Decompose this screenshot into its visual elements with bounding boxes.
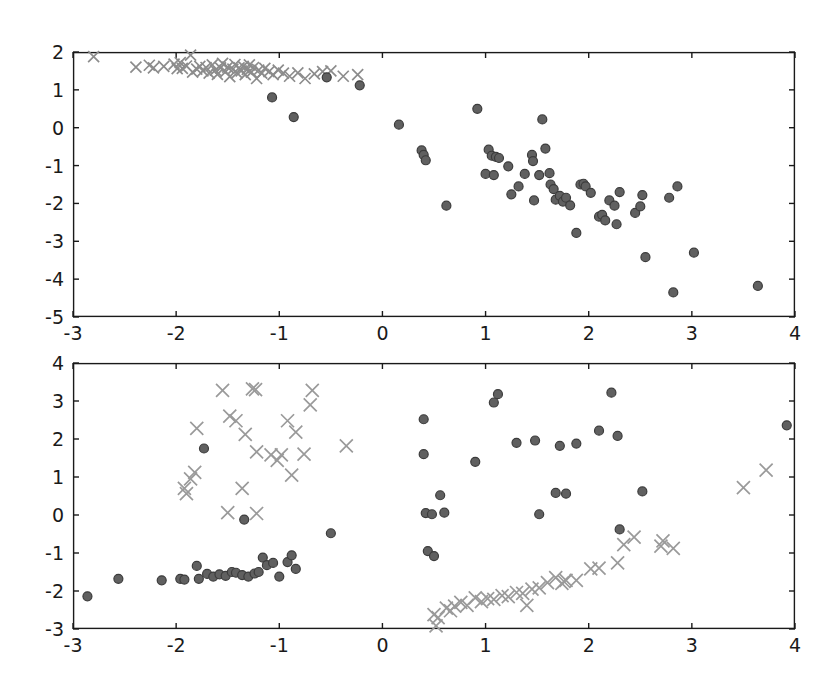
data-point-circle — [514, 182, 523, 191]
data-point-circle — [638, 487, 647, 496]
plot-area — [73, 363, 795, 629]
scatter-plot-top — [73, 52, 795, 317]
data-point-circle — [636, 202, 645, 211]
data-point-circle — [493, 390, 502, 399]
data-point-circle — [326, 529, 335, 538]
axis-ticks — [73, 363, 795, 629]
data-point-cross — [250, 445, 263, 458]
data-point-cross — [611, 556, 624, 569]
data-point-circle — [436, 491, 445, 500]
data-point-circle — [689, 248, 698, 257]
axes-frame — [74, 53, 795, 317]
data-point-circle — [268, 93, 277, 102]
data-point-cross — [216, 384, 229, 397]
y-tick-label: -3 — [45, 620, 64, 639]
data-point-circle — [782, 421, 791, 430]
data-point-circle — [530, 196, 539, 205]
data-point-cross — [130, 62, 141, 73]
x-tick-label: -1 — [270, 324, 289, 343]
data-point-cross — [428, 608, 441, 621]
data-point-circle — [512, 438, 521, 447]
data-point-circle — [157, 576, 166, 585]
data-point-circle — [520, 169, 529, 178]
data-point-cross — [239, 428, 252, 441]
data-point-circle — [665, 193, 674, 202]
data-point-circle — [481, 169, 490, 178]
data-point-cross — [188, 466, 201, 479]
data-point-cross — [430, 619, 443, 632]
y-tick-label: -2 — [45, 582, 64, 601]
data-point-circle — [612, 220, 621, 229]
y-tick-label: 2 — [52, 430, 64, 449]
data-point-cross — [178, 482, 191, 495]
data-point-cross — [541, 576, 554, 589]
data-point-cross — [760, 464, 773, 477]
x-tick-label: 2 — [583, 636, 595, 655]
x-tick-label: -2 — [167, 324, 186, 343]
data-point-cross — [306, 384, 319, 397]
data-point-circle — [287, 551, 296, 560]
data-point-cross — [533, 581, 546, 594]
data-point-cross — [184, 472, 197, 485]
data-point-cross — [229, 414, 242, 427]
data-point-circle — [586, 188, 595, 197]
data-point-circle — [269, 558, 278, 567]
data-point-circle — [192, 561, 201, 570]
data-point-circle — [562, 489, 571, 498]
y-tick-label: 4 — [52, 354, 64, 373]
x-tick-label: 1 — [480, 636, 492, 655]
data-point-circle — [421, 156, 430, 165]
data-point-circle — [641, 253, 650, 262]
data-point-circle — [494, 154, 503, 163]
y-tick-label: -5 — [45, 308, 64, 327]
data-point-circle — [442, 201, 451, 210]
data-point-circle — [551, 488, 560, 497]
data-point-circle — [607, 388, 616, 397]
data-point-circle — [194, 574, 203, 583]
data-point-circle — [83, 592, 92, 601]
data-point-cross — [217, 58, 228, 69]
x-tick-label: -1 — [270, 636, 289, 655]
data-point-cross — [593, 562, 606, 575]
data-point-circle — [541, 144, 550, 153]
data-point-circle — [753, 281, 762, 290]
data-point-cross — [667, 542, 680, 555]
x-tick-label: 0 — [376, 636, 388, 655]
y-tick-label: -4 — [45, 270, 64, 289]
scatter-plot-bottom — [73, 363, 795, 629]
data-point-cross — [250, 507, 263, 520]
data-point-cross — [236, 482, 249, 495]
data-point-circle — [291, 564, 300, 573]
data-point-cross — [185, 50, 196, 61]
series-circle-markers — [268, 73, 763, 297]
data-point-circle — [254, 568, 263, 577]
data-point-circle — [427, 510, 436, 519]
y-tick-label: -1 — [45, 156, 64, 175]
data-point-circle — [572, 439, 581, 448]
data-point-circle — [440, 508, 449, 517]
data-point-circle — [180, 575, 189, 584]
data-point-cross — [180, 487, 193, 500]
data-point-cross — [628, 531, 641, 544]
data-point-circle — [489, 171, 498, 180]
data-point-cross — [304, 398, 317, 411]
x-tick-label: 3 — [686, 636, 698, 655]
data-point-circle — [114, 574, 123, 583]
data-point-circle — [489, 398, 498, 407]
data-point-circle — [566, 201, 575, 210]
x-tick-label: -3 — [64, 636, 83, 655]
data-point-cross — [560, 574, 573, 587]
data-point-cross — [520, 599, 533, 612]
data-point-circle — [275, 572, 284, 581]
data-point-circle — [471, 457, 480, 466]
data-point-cross — [656, 534, 669, 547]
x-tick-label: 3 — [686, 324, 698, 343]
data-point-circle — [555, 441, 564, 450]
data-point-circle — [615, 188, 624, 197]
data-point-cross — [737, 481, 750, 494]
data-point-cross — [275, 448, 288, 461]
data-point-circle — [601, 216, 610, 225]
data-point-circle — [430, 552, 439, 561]
data-point-circle — [531, 436, 540, 445]
axes-frame — [74, 364, 795, 629]
